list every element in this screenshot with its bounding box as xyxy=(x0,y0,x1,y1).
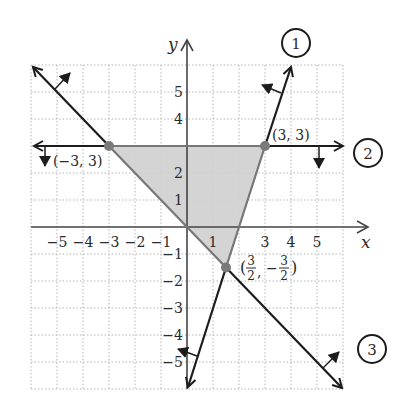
direction-arrow-icon xyxy=(262,85,281,93)
svg-text:2: 2 xyxy=(174,165,183,181)
vertex-1.5-neg1.5 xyxy=(221,263,231,273)
svg-text:(: ( xyxy=(240,258,246,277)
svg-text:−3: −3 xyxy=(162,300,183,316)
direction-arrow-icon xyxy=(55,73,70,89)
vertex-neg3-3 xyxy=(104,141,114,151)
svg-text:−5: −5 xyxy=(47,234,68,250)
x-axis-label: x xyxy=(361,232,371,252)
svg-text:−4: −4 xyxy=(162,327,183,343)
svg-text:−1: −1 xyxy=(162,246,183,262)
svg-text:3: 3 xyxy=(261,234,270,250)
svg-text:−3: −3 xyxy=(99,234,120,250)
svg-text:5: 5 xyxy=(174,84,183,100)
linear-inequality-graph: x y −5 −4 −3 −2 −1 1 3 4 5 5 4 2 1 −1 −2… xyxy=(0,0,409,405)
svg-text:−: − xyxy=(266,260,278,276)
svg-text:5: 5 xyxy=(313,234,322,250)
svg-text:3: 3 xyxy=(247,254,255,268)
svg-text:1: 1 xyxy=(174,192,183,208)
x-tick-labels: −5 −4 −3 −2 −1 1 3 4 5 xyxy=(47,234,322,250)
svg-text:4: 4 xyxy=(174,111,183,127)
direction-arrow-icon xyxy=(323,352,339,368)
svg-text:1: 1 xyxy=(291,35,301,53)
svg-text:3: 3 xyxy=(280,254,288,268)
line-label-3: 3 xyxy=(358,335,386,363)
svg-text:,: , xyxy=(257,264,261,280)
svg-text:2: 2 xyxy=(247,269,255,283)
y-axis-label: y xyxy=(167,34,178,54)
svg-text:−2: −2 xyxy=(162,273,183,289)
svg-text:1: 1 xyxy=(209,234,218,250)
line-label-2: 2 xyxy=(354,139,382,167)
svg-text:3: 3 xyxy=(367,341,377,359)
vertex-label-3-3: (3, 3) xyxy=(272,127,310,143)
svg-text:2: 2 xyxy=(363,145,373,163)
vertex-3-3 xyxy=(260,141,270,151)
svg-text:−2: −2 xyxy=(125,234,146,250)
svg-text:): ) xyxy=(291,258,297,277)
svg-text:−4: −4 xyxy=(73,234,94,250)
svg-text:4: 4 xyxy=(287,234,296,250)
svg-text:2: 2 xyxy=(280,269,288,283)
vertex-label-neg3-3: (−3, 3) xyxy=(53,153,102,169)
svg-text:−5: −5 xyxy=(162,354,183,370)
vertex-label-1.5-neg1.5: ( 3 2 , − 3 2 ) xyxy=(240,254,297,283)
line-label-1: 1 xyxy=(282,29,310,57)
